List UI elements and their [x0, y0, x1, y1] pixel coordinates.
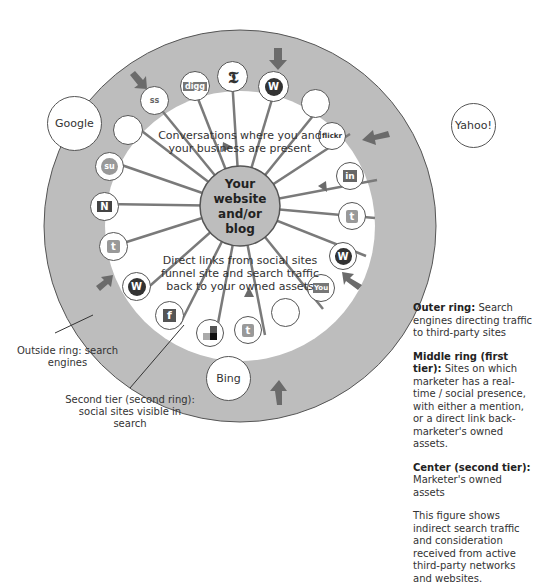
legend-middle-text: Sites on which marketer has a real-time … [413, 363, 526, 449]
outside-ring-line2: engines [15, 357, 120, 369]
node-nytimes: 𝕿 [217, 61, 248, 92]
node-slideshare: ss [140, 86, 169, 115]
node-empty-top-right [301, 89, 330, 118]
slideshare-icon: ss [150, 96, 160, 105]
digg-icon: digg [183, 82, 207, 91]
node-stumbleupon: su [95, 152, 124, 181]
twitter-icon: t [107, 240, 120, 253]
center-line1: Your [200, 177, 280, 192]
nytimes-icon: 𝕿 [228, 67, 238, 87]
twitter-icon: t [346, 210, 359, 223]
search-engine-yahoo: Yahoo! [451, 103, 496, 148]
bottom-caption-line2: funnel site and search traffic [150, 267, 330, 280]
center-line3: and/or [200, 207, 280, 222]
bottom-caption-line1: Direct links from social sites [150, 254, 330, 267]
wordpress-icon: W [128, 278, 146, 296]
stumbleupon-icon: su [101, 158, 118, 175]
center-label: Your website and/or blog [200, 177, 280, 237]
legend-center: Center (second tier): Marketer's owned a… [413, 462, 533, 500]
outside-ring-line1: Outside ring: search [15, 345, 120, 357]
center-line2: website [200, 192, 280, 207]
node-facebook: f [155, 301, 184, 330]
newsvine-icon: N [97, 201, 111, 212]
top-caption-line2: your business are present [150, 142, 330, 155]
delicious-icon [203, 326, 217, 340]
node-wordpress-top: W [258, 71, 289, 102]
second-tier-annotation: Second tier (second ring): social sites … [65, 394, 195, 430]
google-label: Google [55, 117, 94, 130]
node-empty-left [113, 115, 143, 145]
center-line4: blog [200, 222, 280, 237]
top-caption: Conversations where you and your busines… [150, 129, 330, 155]
search-engine-google: Google [47, 96, 102, 151]
wordpress-icon: W [265, 78, 283, 96]
second-tier-line2: social sites visible in search [65, 406, 195, 430]
search-engine-bing: Bing [206, 356, 251, 401]
node-wordpress-left: W [122, 272, 151, 301]
legend: Outer ring: Search engines directing tra… [413, 302, 533, 586]
node-newsvine: N [90, 192, 119, 221]
outside-ring-annotation: Outside ring: search engines [15, 345, 120, 369]
legend-middle: Middle ring (first tier): Sites on which… [413, 351, 533, 451]
bottom-caption: Direct links from social sites funnel si… [150, 254, 330, 293]
legend-note: This figure shows indirect search traffi… [413, 510, 533, 585]
legend-outer-title: Outer ring: [413, 302, 475, 313]
legend-outer: Outer ring: Search engines directing tra… [413, 302, 533, 340]
node-twitter-bottom: t [234, 316, 262, 344]
node-wordpress-right: W [329, 242, 357, 270]
legend-center-text: Marketer's owned assets [413, 474, 502, 498]
node-linkedin: in [336, 162, 364, 190]
legend-center-title: Center (second tier): [413, 462, 531, 473]
bing-label: Bing [216, 372, 241, 385]
wordpress-icon: W [335, 248, 352, 265]
second-tier-line1: Second tier (second ring): [65, 394, 195, 406]
bottom-caption-line3: back to your owned assets [150, 280, 330, 293]
node-empty-bottom-right [271, 298, 300, 327]
yahoo-label: Yahoo! [455, 119, 492, 132]
node-twitter-right: t [338, 202, 366, 230]
linkedin-icon: in [343, 170, 357, 182]
top-caption-line1: Conversations where you and [150, 129, 330, 142]
facebook-icon: f [163, 309, 176, 322]
twitter-icon: t [242, 324, 255, 337]
node-digg: digg [180, 71, 210, 101]
node-twitter-left: t [99, 232, 128, 261]
node-delicious [196, 319, 224, 347]
